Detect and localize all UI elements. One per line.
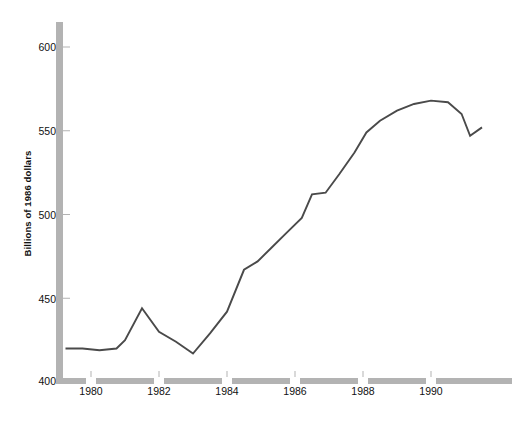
data-series-line bbox=[66, 101, 483, 354]
chart-container: Billions of 1986 dollars 600 550 500 450… bbox=[0, 0, 527, 423]
axis-tick-marks bbox=[63, 47, 432, 378]
plot-area bbox=[0, 0, 527, 423]
y-axis-bar bbox=[56, 22, 63, 382]
x-axis-bar bbox=[56, 378, 512, 384]
